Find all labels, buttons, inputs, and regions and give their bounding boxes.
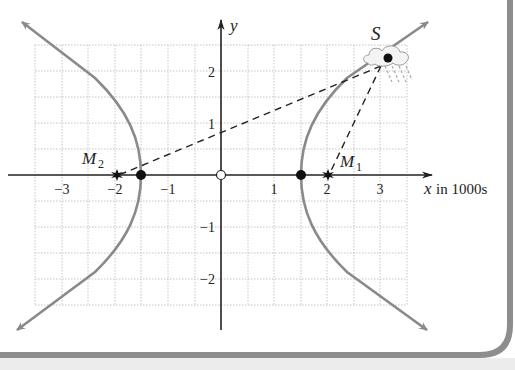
x-tick-label: 2 xyxy=(324,182,331,197)
axis-points xyxy=(111,169,334,181)
vertex-left xyxy=(136,170,146,180)
y-tick-label: 1 xyxy=(208,117,215,132)
label-M2-sub: 2 xyxy=(98,157,104,171)
y-tick-labels: 2 1 −1 −2 xyxy=(200,65,215,287)
storm-cloud-icon xyxy=(364,46,412,82)
x-axis-label: x in 1000s xyxy=(423,179,487,198)
vertex-right xyxy=(296,170,306,180)
x-tick-label: −3 xyxy=(55,182,70,197)
label-M1: M 1 xyxy=(339,152,362,174)
hyperbola-figure: −3 −2 −1 1 2 3 2 1 −1 −2 y x in 1000s S … xyxy=(0,0,515,370)
hyperbola-right-branch-lower xyxy=(301,175,427,330)
y-tick-label: −2 xyxy=(200,272,215,287)
label-M2-main: M xyxy=(81,149,97,168)
x-tick-labels: −3 −2 −1 1 2 3 xyxy=(55,182,384,197)
x-axis-label-var: x xyxy=(423,179,432,198)
label-M1-main: M xyxy=(339,152,355,171)
x-tick-label: 1 xyxy=(271,182,278,197)
x-tick-label: 3 xyxy=(377,182,384,197)
label-M1-sub: 1 xyxy=(356,160,362,174)
label-M2: M 2 xyxy=(81,149,104,171)
line-S-M1 xyxy=(329,66,381,175)
label-S: S xyxy=(371,23,381,44)
y-tick-label: 2 xyxy=(208,65,215,80)
x-tick-label: −1 xyxy=(161,182,176,197)
origin-point xyxy=(217,171,226,180)
storm-point xyxy=(384,54,393,63)
x-tick-label: −2 xyxy=(108,182,123,197)
y-tick-label: −1 xyxy=(200,220,215,235)
x-axis-label-unit: in 1000s xyxy=(436,181,487,197)
y-axis-label: y xyxy=(228,16,238,35)
